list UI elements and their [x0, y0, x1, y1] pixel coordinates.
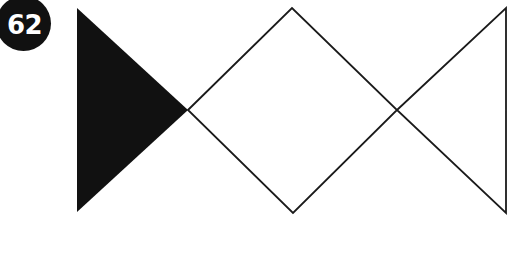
figure-background: [0, 0, 511, 256]
figure-number-label: 62: [7, 12, 42, 38]
figure-canvas: 62: [0, 0, 511, 256]
figure-drawing: [0, 0, 511, 256]
